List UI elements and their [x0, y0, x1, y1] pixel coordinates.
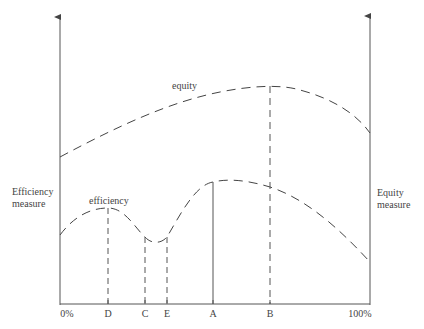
- right-axis-label-line2: measure: [377, 199, 410, 211]
- equity-curve: [60, 86, 370, 157]
- right-axis-label: Equity measure: [377, 187, 410, 211]
- tick-label-e: E: [164, 308, 170, 319]
- left-axis-label-line2: measure: [12, 198, 53, 210]
- equity-curve-label: equity: [172, 80, 197, 92]
- tick-label-0: 0%: [60, 308, 73, 319]
- tick-label-d: D: [104, 308, 111, 319]
- right-axis-label-line1: Equity: [377, 187, 410, 199]
- left-axis-label: Efficiency measure: [12, 186, 53, 210]
- tick-label-c: C: [142, 308, 149, 319]
- diagram-canvas: [0, 0, 424, 329]
- efficiency-curve-label: efficiency: [89, 195, 129, 207]
- tick-label-b: B: [267, 308, 274, 319]
- left-axis-label-line1: Efficiency: [12, 186, 53, 198]
- tick-label-a: A: [209, 308, 216, 319]
- tick-label-100: 100%: [348, 308, 371, 319]
- efficiency-curve: [60, 180, 370, 262]
